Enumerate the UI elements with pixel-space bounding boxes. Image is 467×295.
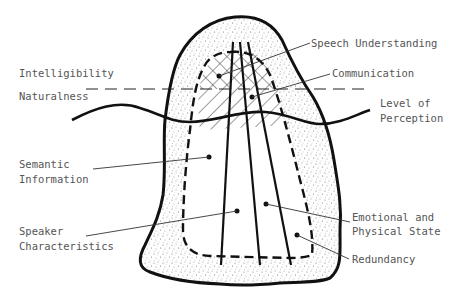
label-speech-understanding: Speech Understanding (311, 37, 437, 49)
label-semantic: Semantic (19, 158, 70, 170)
label-perception: Perception (380, 112, 443, 124)
label-speaker: Speaker (19, 225, 63, 237)
label-level-of: Level of (380, 97, 431, 109)
speech-perception-diagram: Intelligibility Naturalness Speech Under… (0, 0, 467, 295)
label-intelligibility: Intelligibility (19, 67, 114, 79)
label-physical-state: Physical State (352, 225, 441, 237)
label-communication: Communication (332, 67, 414, 79)
label-redundancy: Redundancy (352, 253, 415, 265)
label-naturalness: Naturalness (19, 90, 89, 102)
label-emotional-and: Emotional and (352, 211, 434, 223)
label-information: Information (19, 173, 89, 185)
label-characteristics: Characteristics (19, 240, 114, 252)
